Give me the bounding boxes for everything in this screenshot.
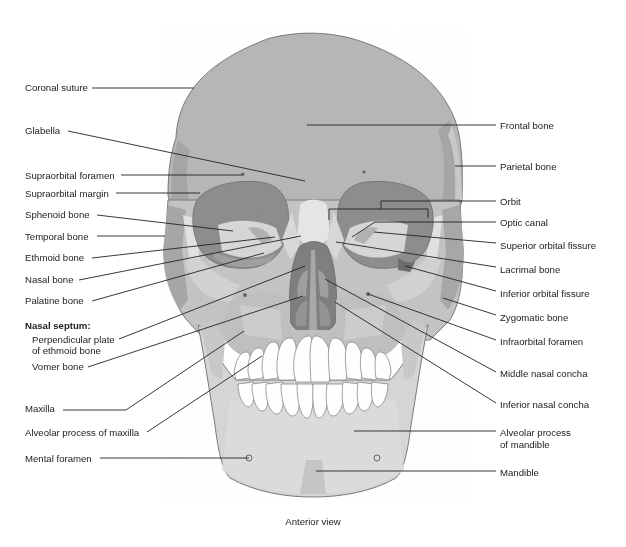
- label-alveolar-process-maxilla: Alveolar process of maxilla: [25, 427, 139, 439]
- label-supraorbital-foramen: Supraorbital foramen: [25, 170, 115, 182]
- cranium: [168, 33, 462, 215]
- label-inferior-orbital-fissure: Inferior orbital fissure: [500, 288, 590, 300]
- label-ethmoid-bone: Ethmoid bone: [25, 252, 84, 264]
- label-palatine-bone: Palatine bone: [25, 295, 84, 307]
- label-superior-orbital-fissure: Superior orbital fissure: [500, 240, 596, 252]
- label-frontal-bone: Frontal bone: [500, 120, 554, 132]
- infraorbital-foramen-left: [243, 293, 247, 297]
- label-perpendicular-plate-2: of ethmoid bone: [32, 345, 101, 357]
- label-coronal-suture: Coronal suture: [25, 82, 88, 94]
- label-nasal-bone: Nasal bone: [25, 274, 74, 286]
- label-alveolar-process-mandible: Alveolar process: [500, 427, 571, 439]
- label-maxilla: Maxilla: [25, 403, 55, 415]
- label-lacrimal-bone: Lacrimal bone: [500, 264, 560, 276]
- label-zygomatic-bone: Zygomatic bone: [500, 312, 568, 324]
- label-inferior-nasal-concha: Inferior nasal concha: [500, 399, 589, 411]
- label-optic-canal: Optic canal: [500, 217, 548, 229]
- frontal-bone-shape: [168, 33, 462, 215]
- label-alveolar-process-mandible-2: of mandible: [500, 439, 550, 451]
- teeth: [234, 336, 391, 418]
- supraorbital-foramen-right: [362, 170, 365, 173]
- label-orbit: Orbit: [500, 196, 521, 208]
- nasal-septum-heading: Nasal septum:: [25, 320, 91, 332]
- label-vomer-bone: Vomer bone: [32, 361, 84, 373]
- label-temporal-bone: Temporal bone: [25, 231, 88, 243]
- view-caption: Anterior view: [0, 516, 626, 527]
- label-middle-nasal-concha: Middle nasal concha: [500, 368, 587, 380]
- label-sphenoid-bone: Sphenoid bone: [25, 209, 90, 221]
- label-supraorbital-margin: Supraorbital margin: [25, 188, 109, 200]
- orbit-left: [193, 181, 289, 268]
- label-infraorbital-foramen: Infraorbital foramen: [500, 336, 583, 348]
- label-mandible: Mandible: [500, 467, 539, 479]
- label-parietal-bone: Parietal bone: [500, 161, 557, 173]
- nasal-bones: [297, 200, 330, 245]
- label-glabella: Glabella: [25, 125, 60, 137]
- label-mental-foramen: Mental foramen: [25, 453, 92, 465]
